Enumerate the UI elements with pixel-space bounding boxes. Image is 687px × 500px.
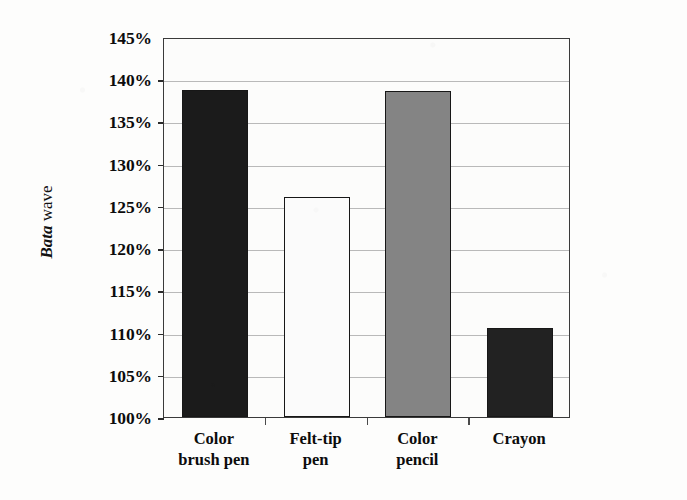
- category-separator-tick: [367, 418, 368, 425]
- y-axis-tick-label: 130%: [60, 154, 152, 175]
- plot-area: [163, 38, 570, 418]
- chart-screenshot: Bata wave 145%140%135%130%125%120%115%11…: [0, 0, 687, 500]
- y-axis-tick-label: 105%: [60, 365, 152, 386]
- y-axis-tick-label: 140%: [60, 70, 152, 91]
- x-axis-category-label: Colorbrush pen: [163, 428, 265, 470]
- category-label-line: pencil: [367, 449, 469, 470]
- y-axis-tick-label: 120%: [60, 239, 152, 260]
- x-axis-category-label: Felt-tippen: [265, 428, 367, 470]
- y-axis-tick-label: 100%: [60, 408, 152, 429]
- category-label-line: Felt-tip: [265, 428, 367, 449]
- category-separator-tick: [468, 418, 469, 425]
- gridline: [164, 81, 569, 82]
- category-separator-tick: [265, 418, 266, 425]
- category-label-line: Color: [367, 428, 469, 449]
- category-label-line: Color: [163, 428, 265, 449]
- y-axis-tick-label: 135%: [60, 112, 152, 133]
- bar-color-brush-pen[interactable]: [182, 90, 248, 417]
- bar-felt-tip-pen[interactable]: [284, 197, 350, 417]
- category-label-line: pen: [265, 449, 367, 470]
- y-axis-tick-label: 145%: [60, 28, 152, 49]
- x-axis-category-label: Colorpencil: [367, 428, 469, 470]
- y-axis-tick-mark: [158, 418, 164, 420]
- bar-crayon[interactable]: [487, 328, 553, 417]
- y-axis-tick-label: 125%: [60, 196, 152, 217]
- y-axis-tick-label: 115%: [60, 281, 152, 302]
- x-axis-category-label: Crayon: [468, 428, 570, 449]
- category-label-line: brush pen: [163, 449, 265, 470]
- y-axis-tick-label: 110%: [60, 323, 152, 344]
- y-axis-tick-labels: 145%140%135%130%125%120%115%110%105%100%: [52, 0, 152, 500]
- category-label-line: Crayon: [468, 428, 570, 449]
- bar-color-pencil[interactable]: [385, 91, 451, 417]
